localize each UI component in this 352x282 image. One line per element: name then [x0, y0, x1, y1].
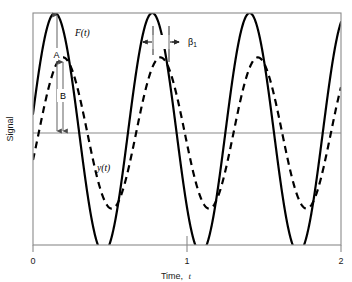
figure-container: 0 1 2 Time, t Signal	[0, 0, 352, 282]
curve-label-response: y(t)	[96, 163, 110, 174]
beta1-label-subscript: 1	[193, 41, 197, 48]
y-axis-title: Signal	[5, 116, 15, 141]
x-tick-label-1: 1	[184, 256, 189, 266]
amplitude-a-label: A	[53, 50, 59, 60]
x-tick-label-0: 0	[30, 256, 35, 266]
amplitude-b-label: B	[60, 91, 66, 101]
curve-label-forcing-function: F(t)	[74, 28, 90, 39]
signal-response-plot: 0 1 2 Time, t Signal	[0, 0, 352, 282]
x-axis-title-main: Time,	[161, 271, 183, 281]
x-tick-label-2: 2	[338, 256, 343, 266]
